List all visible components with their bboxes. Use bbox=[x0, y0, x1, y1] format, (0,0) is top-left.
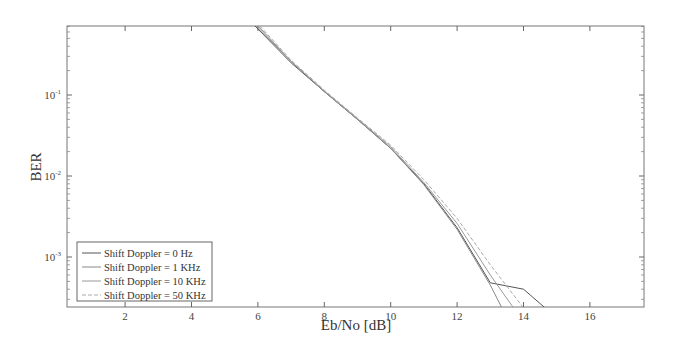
legend-item-label: Shift Doppler = 1 KHz bbox=[104, 262, 201, 273]
y-tick-label: 10-2 bbox=[44, 169, 61, 182]
x-tick-label: 4 bbox=[189, 310, 195, 322]
x-axis-label: Eb/No [dB] bbox=[321, 317, 391, 333]
x-tick-label: 6 bbox=[255, 310, 261, 322]
x-tick-label: 2 bbox=[122, 310, 128, 322]
legend-item-label: Shift Doppler = 0 Hz bbox=[104, 248, 193, 259]
y-tick-label: 10-3 bbox=[44, 250, 61, 263]
ber-chart: 246810121416 10-110-210-3 Shift Doppler … bbox=[0, 0, 673, 352]
y-axis-label: BER bbox=[28, 152, 44, 181]
legend-item-label: Shift Doppler = 50 KHz bbox=[104, 290, 206, 301]
x-tick-label: 16 bbox=[584, 310, 596, 322]
legend: Shift Doppler = 0 HzShift Doppler = 1 KH… bbox=[77, 242, 212, 301]
y-tick-label: 10-1 bbox=[44, 88, 61, 101]
x-tick-label: 14 bbox=[518, 310, 530, 322]
x-tick-label: 12 bbox=[452, 310, 463, 322]
legend-item-label: Shift Doppler = 10 KHz bbox=[104, 276, 206, 287]
